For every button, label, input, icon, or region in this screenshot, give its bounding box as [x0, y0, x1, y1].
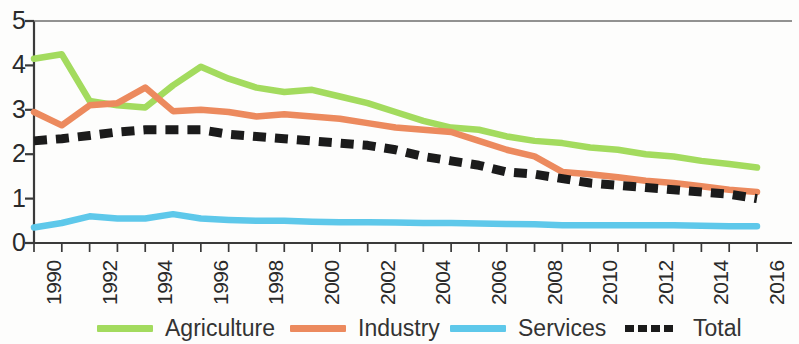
y-tick-label: 2 — [0, 141, 26, 166]
dash-segment-icon — [664, 325, 673, 332]
y-tick-label: 4 — [0, 52, 26, 77]
legend-item-total[interactable]: Total — [625, 312, 742, 344]
x-tick-label: 2010 — [598, 260, 622, 305]
x-tick-label: 1990 — [42, 260, 66, 305]
legend-swatch-total-icon — [625, 325, 681, 332]
legend-swatch-services-icon — [450, 325, 506, 332]
y-tick-label: 0 — [0, 230, 26, 255]
y-tick-label: 1 — [0, 186, 26, 211]
x-tick-label: 1994 — [153, 260, 177, 305]
x-tick-label: 2016 — [765, 260, 789, 305]
dash-segment-icon — [638, 325, 647, 332]
series-line-services — [34, 214, 757, 227]
y-tick-label: 3 — [0, 97, 26, 122]
chart-legend: AgricultureIndustryServicesTotal — [0, 312, 799, 344]
x-tick-label: 2002 — [376, 260, 400, 305]
y-tick-label: 5 — [0, 8, 26, 33]
x-tick-label: 2006 — [487, 260, 511, 305]
dash-segment-icon — [625, 325, 634, 332]
x-tick-label: 2000 — [320, 260, 344, 305]
x-tick-label: 2012 — [654, 260, 678, 305]
legend-swatch-industry-icon — [290, 325, 346, 332]
data-series — [34, 54, 757, 227]
legend-label: Agriculture — [165, 317, 275, 340]
x-tick-label: 2004 — [431, 260, 455, 305]
series-line-total — [34, 130, 757, 199]
x-tick-label: 1998 — [264, 260, 288, 305]
x-tick-label: 2008 — [543, 260, 567, 305]
x-tick-label: 2014 — [709, 260, 733, 305]
legend-item-industry[interactable]: Industry — [290, 312, 440, 344]
x-tick-label: 1992 — [98, 260, 122, 305]
legend-item-agriculture[interactable]: Agriculture — [97, 312, 275, 344]
legend-label: Total — [693, 317, 742, 340]
legend-swatch-agriculture-icon — [97, 325, 153, 332]
series-line-industry — [34, 88, 757, 192]
legend-item-services[interactable]: Services — [450, 312, 606, 344]
line-chart: 543210 199019921994199619982000200220042… — [0, 0, 799, 344]
dash-segment-icon — [651, 325, 660, 332]
legend-label: Services — [518, 317, 606, 340]
x-tick-label: 1996 — [209, 260, 233, 305]
legend-label: Industry — [358, 317, 440, 340]
